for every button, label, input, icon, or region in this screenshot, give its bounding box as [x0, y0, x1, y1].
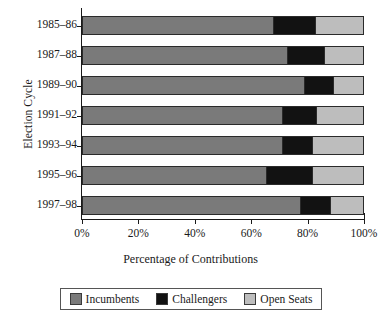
legend-swatch-icon [70, 293, 82, 305]
y-axis-tick [77, 116, 82, 117]
x-axis-tick [308, 219, 309, 224]
x-axis-tick-label: 80% [278, 227, 338, 239]
stacked-bar [82, 76, 364, 95]
legend-item-incumbents: Incumbents [70, 293, 140, 305]
y-axis-tick [77, 176, 82, 177]
y-axis-tick-label: 1985–86 [0, 18, 77, 30]
bar-segment-open-seats [315, 17, 363, 34]
stacked-bar-chart: Election Cycle 1985–861987–881989–901991… [0, 0, 381, 318]
legend-label: Incumbents [86, 293, 140, 305]
y-axis-tick [77, 26, 82, 27]
x-axis-tick [138, 219, 139, 224]
bar-segment-challengers [273, 17, 314, 34]
y-axis-tick-label: 1989–90 [0, 78, 77, 90]
bar-segment-open-seats [316, 107, 363, 124]
bar-segment-open-seats [330, 197, 363, 214]
bar-segment-challengers [300, 197, 330, 214]
stacked-bar [82, 16, 364, 35]
legend-swatch-icon [244, 293, 256, 305]
bar-segment-challengers [282, 137, 312, 154]
y-axis-tick [77, 56, 82, 57]
bar-row: 1993–94 [82, 136, 364, 155]
x-axis-tick [82, 219, 83, 224]
bar-segment-challengers [282, 107, 316, 124]
bar-segment-incumbents [83, 77, 304, 94]
y-axis-tick [77, 206, 82, 207]
bar-segment-open-seats [312, 137, 363, 154]
chart-legend: IncumbentsChallengersOpen Seats [60, 288, 322, 310]
legend-item-open-seats: Open Seats [244, 293, 312, 305]
bar-row: 1987–88 [82, 46, 364, 65]
y-axis-tick [77, 146, 82, 147]
x-axis-tick-label: 100% [334, 227, 381, 239]
bar-segment-open-seats [312, 167, 363, 184]
bar-segment-challengers [266, 167, 311, 184]
bar-segment-challengers [287, 47, 324, 64]
x-axis-tick [251, 219, 252, 224]
x-axis-tick-label: 0% [52, 227, 112, 239]
x-axis-tick-label: 20% [108, 227, 168, 239]
stacked-bar [82, 106, 364, 125]
y-axis-tick [77, 86, 82, 87]
bar-segment-incumbents [83, 167, 266, 184]
x-axis-tick [195, 219, 196, 224]
bar-row: 1991–92 [82, 106, 364, 125]
legend-item-challengers: Challengers [156, 293, 227, 305]
x-axis-line [81, 219, 365, 220]
bar-segment-open-seats [324, 47, 363, 64]
stacked-bar [82, 136, 364, 155]
bar-segment-open-seats [333, 77, 363, 94]
bar-segment-incumbents [83, 17, 273, 34]
bar-row: 1985–86 [82, 16, 364, 35]
bar-segment-incumbents [83, 47, 287, 64]
legend-label: Open Seats [260, 293, 312, 305]
y-axis-tick-label: 1997–98 [0, 198, 77, 210]
bar-segment-incumbents [83, 197, 300, 214]
legend-label: Challengers [172, 293, 227, 305]
stacked-bar [82, 196, 364, 215]
bar-row: 1989–90 [82, 76, 364, 95]
x-axis-tick-label: 40% [165, 227, 225, 239]
bar-row: 1995–96 [82, 166, 364, 185]
bar-row: 1997–98 [82, 196, 364, 215]
plot-area: 1985–861987–881989–901991–921993–941995–… [82, 8, 364, 218]
y-axis-tick-label: 1993–94 [0, 138, 77, 150]
bar-segment-challengers [304, 77, 333, 94]
y-axis-tick-label: 1987–88 [0, 48, 77, 60]
stacked-bar [82, 46, 364, 65]
y-axis-tick-label: 1995–96 [0, 168, 77, 180]
x-axis-tick [364, 219, 365, 224]
y-axis-tick-label: 1991–92 [0, 108, 77, 120]
stacked-bar [82, 166, 364, 185]
x-axis-title: Percentage of Contributions [0, 252, 381, 267]
bar-segment-incumbents [83, 137, 282, 154]
legend-swatch-icon [156, 293, 168, 305]
x-axis-tick-label: 60% [221, 227, 281, 239]
bar-segment-incumbents [83, 107, 282, 124]
